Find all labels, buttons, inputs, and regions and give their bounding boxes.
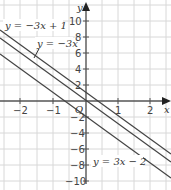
y-tick-label: −4 bbox=[70, 128, 85, 139]
line-label-3x-minus2: y = 3x − 2 bbox=[92, 156, 147, 167]
y-tick-label: 4 bbox=[75, 64, 81, 75]
y-tick-label: −6 bbox=[70, 144, 85, 155]
x-tick-label: 1 bbox=[115, 105, 121, 116]
coordinate-plane: −2 −1 1 2 10 8 6 4 2 −2 −4 −6 −8 −10 y x… bbox=[0, 0, 171, 190]
y-axis-arrow-icon bbox=[82, 2, 90, 11]
y-axis-label: y bbox=[76, 2, 83, 13]
line-label-neg3x-plus1: y = −3x + 1 bbox=[4, 20, 67, 31]
x-tick-label: −2 bbox=[13, 105, 28, 116]
y-tick-label: 6 bbox=[75, 48, 81, 59]
y-tick-label: −10 bbox=[65, 176, 86, 187]
x-axis-label: x bbox=[164, 104, 170, 115]
line-label-neg3x: y = −3x bbox=[36, 38, 78, 49]
y-tick-label: 2 bbox=[75, 80, 81, 91]
y-tick-label: 10 bbox=[69, 16, 82, 27]
origin-label: O bbox=[75, 104, 83, 115]
y-tick-label: −8 bbox=[70, 160, 85, 171]
x-tick-label: 2 bbox=[147, 105, 153, 116]
x-tick-label: −1 bbox=[46, 105, 61, 116]
